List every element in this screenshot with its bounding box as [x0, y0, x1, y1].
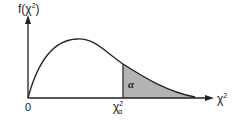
density-curve	[28, 39, 195, 98]
y-axis-label: f(χ2)	[18, 2, 40, 15]
critical-value-label: χ2α	[113, 100, 122, 115]
alpha-area-label: α	[128, 79, 134, 90]
x-axis-label: χ2	[217, 92, 227, 105]
y-axis-arrow-icon	[25, 15, 31, 24]
origin-label: 0	[25, 102, 31, 113]
x-axis-arrow-icon	[205, 95, 214, 101]
chi-square-chart	[0, 0, 251, 123]
